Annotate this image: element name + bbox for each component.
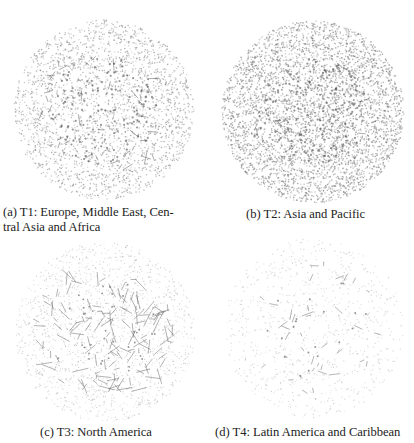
caption-d-text: T4: Latin America and Caribbean xyxy=(233,425,401,439)
network-nodes xyxy=(226,239,403,418)
subfigure-c: (c)T3: North America xyxy=(0,0,207,443)
caption-c-label: (c) xyxy=(40,425,54,439)
caption-c-text: T3: North America xyxy=(57,425,152,439)
network-nodes xyxy=(16,243,196,422)
caption-d: (d)T4: Latin America and Caribbean xyxy=(215,425,400,440)
network-plot-c xyxy=(0,230,207,430)
caption-c: (c)T3: North America xyxy=(40,425,152,440)
caption-d-label: (d) xyxy=(215,425,230,439)
subfigure-d: (d)T4: Latin America and Caribbean xyxy=(207,0,414,443)
network-plot-d xyxy=(207,230,414,430)
